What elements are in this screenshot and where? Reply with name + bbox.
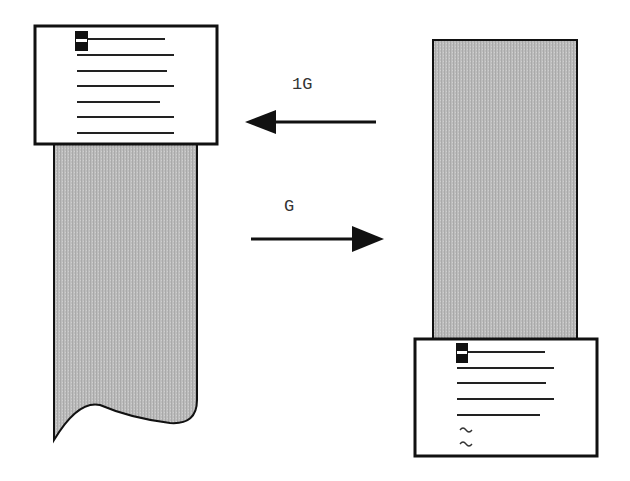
diagram-canvas — [0, 0, 630, 481]
arrow-right-g — [251, 226, 384, 252]
label-g: G — [284, 197, 294, 216]
right-screen-window — [415, 339, 597, 456]
label-1g: 1G — [292, 75, 312, 94]
arrow-left-1g — [245, 110, 376, 134]
left-screen-window — [35, 26, 217, 144]
right-file-strip — [433, 40, 577, 340]
left-file-strip — [54, 140, 197, 440]
